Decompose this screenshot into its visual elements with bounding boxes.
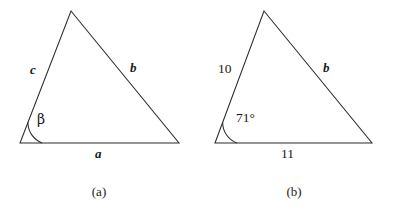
caption-panel-b: (b) [264, 184, 324, 200]
angle-label-71: 71° [236, 111, 255, 125]
angle-label-beta: β [37, 112, 45, 126]
side-label-c: c [30, 63, 36, 76]
side-label-b: b [130, 61, 137, 74]
caption-panel-a: (a) [69, 184, 129, 200]
side-label-11: 11 [281, 147, 294, 161]
side-label-10: 10 [218, 62, 232, 76]
side-label-a: a [95, 147, 102, 160]
figure-root: cbaβ10b1171° (a) (b) [0, 0, 394, 209]
triangle-figure-canvas [0, 0, 394, 209]
side-label-b: b [323, 61, 330, 74]
angle-arc-b [223, 122, 237, 143]
